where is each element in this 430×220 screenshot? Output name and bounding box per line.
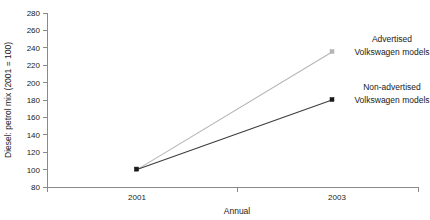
y-tick-label-120: 120: [27, 148, 41, 157]
data-point-nonadvertised-2003: [330, 98, 334, 102]
x-axis-title: Annual: [224, 206, 251, 216]
y-tick-label-280: 280: [27, 9, 41, 18]
y-tick-label-220: 220: [27, 61, 41, 70]
y-tick-label-240: 240: [27, 44, 41, 53]
series-label-nonadvertised-line2: Volkswagen models: [354, 95, 429, 105]
y-tick-label-80: 80: [31, 183, 40, 192]
x-tick-label-2001: 2001: [128, 193, 146, 202]
y-tick-label-100: 100: [27, 166, 41, 175]
chart-container: Diesel: petrol mix (2001 = 100) 80 100 1…: [0, 0, 430, 220]
series-label-nonadvertised-line1: Non-advertised: [363, 82, 421, 92]
y-tick-label-180: 180: [27, 96, 41, 105]
y-tick-label-200: 200: [27, 79, 41, 88]
y-tick-label-140: 140: [27, 131, 41, 140]
series-label-advertised-line2: Volkswagen models: [354, 47, 429, 57]
y-tick-label-160: 160: [27, 113, 41, 122]
data-point-advertised-2003: [330, 50, 334, 54]
data-point-nonadvertised-2001: [135, 167, 139, 171]
y-tick-label-260: 260: [27, 26, 41, 35]
line-chart: Diesel: petrol mix (2001 = 100) 80 100 1…: [0, 0, 430, 220]
x-tick-label-2003: 2003: [328, 193, 346, 202]
series-label-advertised-line1: Advertised: [372, 34, 412, 44]
y-axis-title: Diesel: petrol mix (2001 = 100): [3, 42, 13, 158]
